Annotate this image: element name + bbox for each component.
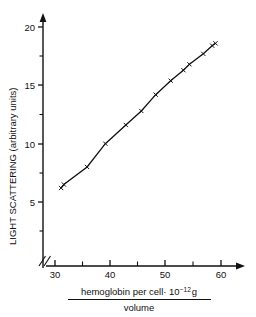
y-tick-label-5: 5: [30, 197, 35, 208]
data-point-marker: [124, 123, 128, 127]
figure-container: 20 15 10 5 30 40 50 60: [0, 0, 256, 317]
x-axis-group: 30 40 50 60: [46, 260, 245, 280]
data-point-marker: [169, 79, 173, 83]
x-axis-arrowhead: [236, 263, 245, 270]
x-axis-label-group: hemoglobin per cell· 10−12g volume: [68, 286, 211, 314]
data-point-marker: [62, 182, 66, 186]
chart-canvas: 20 15 10 5 30 40 50 60: [0, 0, 256, 317]
data-point-marker: [187, 62, 191, 66]
data-point-marker: [139, 109, 143, 113]
y-axis-arrowhead: [40, 13, 47, 22]
y-tick-label-15: 15: [24, 80, 35, 91]
data-series-group: [59, 41, 218, 190]
x-axis-label-exponent: −12: [180, 286, 192, 293]
x-axis-label-numerator: hemoglobin per cell· 10−12g: [81, 286, 197, 298]
x-tick-label-60: 60: [216, 269, 227, 280]
y-tick-label-20: 20: [24, 22, 35, 33]
axis-break-marker: [39, 256, 51, 266]
x-axis-label-denominator: volume: [124, 302, 155, 313]
data-point-marker: [85, 165, 89, 169]
data-point-marker: [154, 93, 158, 97]
x-axis-label-unit: g: [192, 286, 197, 297]
x-tick-label-40: 40: [105, 269, 116, 280]
data-point-marker: [59, 186, 63, 190]
data-point-marker: [201, 52, 205, 56]
data-line: [61, 43, 215, 188]
x-tick-label-30: 30: [50, 269, 61, 280]
data-markers: [59, 41, 218, 190]
y-axis-group: 20 15 10 5: [24, 13, 46, 268]
data-point-marker: [103, 142, 107, 146]
y-axis-label: LIGHT SCATTERING (arbitrary units): [7, 88, 18, 245]
x-axis-label-numerator-text: hemoglobin per cell· 10: [81, 286, 180, 297]
x-tick-label-50: 50: [160, 269, 171, 280]
y-tick-label-10: 10: [24, 139, 35, 150]
data-point-marker: [181, 68, 185, 72]
